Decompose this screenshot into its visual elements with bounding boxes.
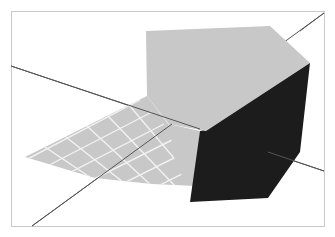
axis-line-ascending-overlay-top <box>300 13 324 31</box>
surface-plot-svg <box>0 0 335 237</box>
figure-container <box>0 0 335 237</box>
